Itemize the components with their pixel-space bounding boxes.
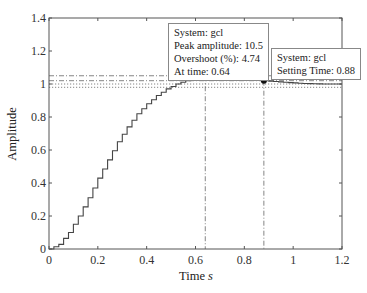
x-tick-label: 0.8 [237,253,252,267]
reference-lines [49,76,342,249]
x-axis-label: Time s [179,269,213,283]
peak-time: At time: 0.64 [174,65,263,78]
x-tick-label: 1.2 [335,253,350,267]
settling-annotation-box: System: gcl Setting Time: 0.88 [271,48,361,80]
settle-system: System: gcl [277,51,355,64]
y-tick-label: 1.4 [31,11,46,25]
y-tick-label: 0.2 [31,209,46,223]
x-tick-label: 0.6 [188,253,203,267]
peak-annotation-box: System: gcl Peak amplitude: 10.5 Oversho… [168,23,269,81]
y-tick-label: 0.6 [31,143,46,157]
x-tick-label: 1 [290,253,296,267]
peak-overshoot: Overshoot (%): 4.74 [174,52,263,65]
step-response-curve [49,76,342,249]
x-tick-label: 0.2 [90,253,105,267]
peak-system: System: gcl [174,26,263,39]
y-tick-label: 1 [40,77,46,91]
y-tick-label: 0.4 [31,176,46,190]
settle-time: Setting Time: 0.88 [277,64,355,77]
y-tick-label: 0.8 [31,110,46,124]
peak-amplitude: Peak amplitude: 10.5 [174,39,263,52]
y-tick-label: 0 [40,242,46,256]
y-axis-label: Amplitude [5,107,19,161]
y-tick-label: 1.2 [31,44,46,58]
x-tick-label: 0 [46,253,52,267]
x-tick-label: 0.4 [139,253,154,267]
